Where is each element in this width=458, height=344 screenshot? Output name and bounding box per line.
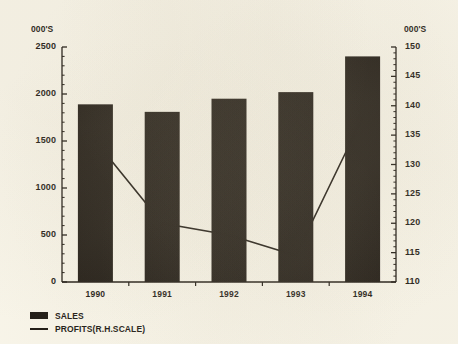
sales-bar	[145, 112, 180, 282]
x-axis-tick-label: 1992	[204, 289, 254, 299]
sales-bar	[78, 104, 113, 282]
right-axis-tick-label: 130	[405, 159, 435, 169]
legend-item-label: PROFITS(R.H.SCALE)	[55, 324, 145, 334]
legend-item-label: SALES	[55, 311, 84, 321]
right-axis-tick-label: 150	[405, 41, 435, 51]
left-axis-tick-label: 0	[22, 276, 56, 286]
x-axis-tick-label: 1994	[338, 289, 388, 299]
legend-line-swatch-icon	[30, 325, 48, 332]
bars-layer	[78, 56, 380, 282]
left-axis-tick-label: 1000	[22, 182, 56, 192]
x-axis-tick-label: 1991	[137, 289, 187, 299]
legend-item: SALES	[30, 309, 145, 322]
left-axis-tick-label: 1500	[22, 135, 56, 145]
legend-bar-swatch-icon	[30, 312, 48, 319]
left-axis-tick-label: 2000	[22, 88, 56, 98]
x-axis-tick-label: 1993	[271, 289, 321, 299]
left-axis-tick-label: 500	[22, 229, 56, 239]
right-axis-tick-label: 135	[405, 129, 435, 139]
sales-bar	[212, 99, 247, 282]
sales-bar	[345, 56, 380, 282]
right-axis-tick-label: 125	[405, 188, 435, 198]
chart-page: 000'S 000'S 0500100015002000250011011512…	[0, 0, 458, 344]
right-axis-tick-label: 110	[405, 276, 435, 286]
left-axis-tick-label: 2500	[22, 41, 56, 51]
right-axis-tick-label: 145	[405, 70, 435, 80]
sales-profits-chart: 000'S 000'S 0500100015002000250011011512…	[0, 0, 458, 344]
right-axis-tick-label: 120	[405, 217, 435, 227]
right-axis-tick-label: 115	[405, 247, 435, 257]
x-axis-tick-label: 1990	[70, 289, 120, 299]
chart-legend: SALESPROFITS(R.H.SCALE)	[30, 309, 145, 335]
sales-bar	[278, 92, 313, 282]
legend-item: PROFITS(R.H.SCALE)	[30, 322, 145, 335]
right-axis-tick-label: 140	[405, 100, 435, 110]
